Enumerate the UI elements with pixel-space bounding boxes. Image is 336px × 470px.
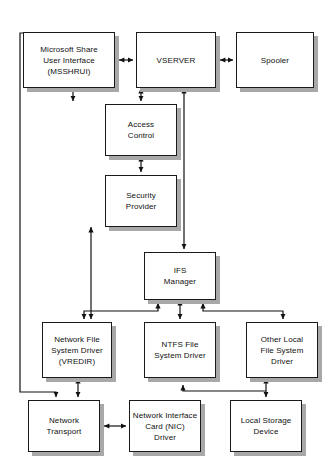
node-network-transport[interactable]: Network Transport [28,400,100,452]
node-label-vredir: Network File System Driver (VREDIR) [49,334,105,367]
node-layer: Microsoft Share User Interface (MSSHRUI)… [0,0,336,470]
node-other-local-fs[interactable]: Other Local File System Driver [246,322,318,378]
node-msshrui[interactable]: Microsoft Share User Interface (MSSHRUI) [23,32,115,88]
node-label-msshrui: Microsoft Share User Interface (MSSHRUI) [38,44,100,77]
node-vredir[interactable]: Network File System Driver (VREDIR) [42,322,112,378]
node-security-provider[interactable]: Security Provider [105,175,177,227]
node-spooler[interactable]: Spooler [236,32,314,88]
node-label-ifs-manager: IFS Manager [162,265,198,287]
node-ntfs[interactable]: NTFS File System Driver [144,322,216,378]
node-label-spooler: Spooler [259,55,291,66]
node-label-other-local-fs: Other Local File System Driver [259,334,306,367]
node-label-vserver: VSERVER [155,55,198,66]
node-nic-driver[interactable]: Network Interface Card (NIC) Driver [129,400,201,452]
node-label-nic-driver: Network Interface Card (NIC) Driver [131,410,199,443]
node-label-security-provider: Security Provider [124,190,159,212]
node-label-local-storage: Local Storage Device [239,415,294,437]
node-label-network-transport: Network Transport [45,415,84,437]
node-label-ntfs: NTFS File System Driver [152,339,208,361]
node-vserver[interactable]: VSERVER [136,32,216,88]
architecture-diagram: Microsoft Share User Interface (MSSHRUI)… [0,0,336,470]
node-access-control[interactable]: Access Control [105,104,177,156]
node-local-storage[interactable]: Local Storage Device [230,400,302,452]
node-ifs-manager[interactable]: IFS Manager [144,252,216,300]
node-label-access-control: Access Control [126,119,157,141]
